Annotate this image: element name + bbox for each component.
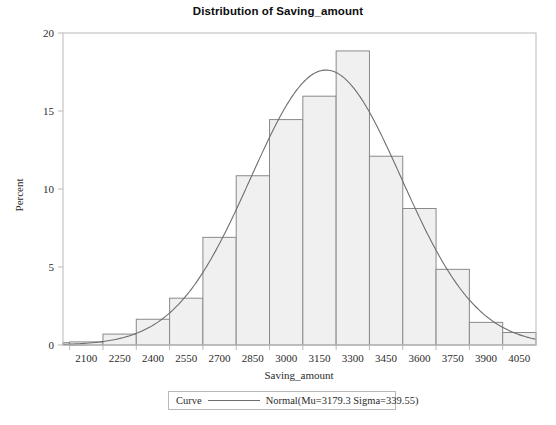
x-tick-label: 3300: [342, 352, 365, 364]
x-tick-label: 3000: [275, 352, 298, 364]
histogram-bar: [369, 156, 402, 345]
histogram-bar: [236, 176, 269, 345]
histogram-chart: Distribution of Saving_amount 05101520 2…: [0, 0, 556, 425]
histogram-bar: [270, 120, 303, 345]
y-axis-title: Percent: [13, 179, 25, 212]
histogram-bar: [436, 269, 469, 345]
chart-legend: Curve Normal(Mu=3179.3 Sigma=339.55): [168, 391, 396, 410]
y-axis-ticks: 05101520: [43, 27, 63, 351]
histogram-bar: [170, 298, 203, 345]
histogram-bar: [203, 237, 236, 345]
bars-group: [63, 51, 536, 345]
histogram-bar: [303, 96, 336, 345]
histogram-bar: [403, 209, 436, 346]
legend-line-swatch: [208, 400, 260, 401]
x-tick-label: 2250: [109, 352, 132, 364]
x-tick-label: 2550: [175, 352, 198, 364]
x-axis-title: Saving_amount: [264, 369, 333, 381]
y-tick-label: 5: [49, 261, 55, 273]
y-tick-label: 10: [43, 183, 55, 195]
y-tick-label: 15: [43, 105, 55, 117]
x-tick-label: 3900: [475, 352, 498, 364]
histogram-bar: [469, 322, 502, 345]
x-tick-label: 3450: [375, 352, 398, 364]
x-tick-label: 4050: [508, 352, 531, 364]
x-axis-ticks: 2100225024002550270028503000315033003450…: [70, 345, 531, 364]
x-tick-label: 3600: [408, 352, 431, 364]
y-tick-label: 20: [43, 27, 55, 39]
plot-area: 05101520 2100225024002550270028503000315…: [0, 0, 556, 425]
x-tick-label: 3750: [442, 352, 465, 364]
legend-key-label: Curve: [176, 395, 202, 406]
x-tick-label: 3150: [308, 352, 331, 364]
x-tick-label: 2100: [75, 352, 98, 364]
x-tick-label: 2400: [142, 352, 165, 364]
histogram-bar: [136, 319, 169, 345]
x-tick-label: 2700: [209, 352, 232, 364]
y-tick-label: 0: [49, 339, 55, 351]
x-tick-label: 2850: [242, 352, 265, 364]
legend-entry-label: Normal(Mu=3179.3 Sigma=339.55): [266, 395, 419, 406]
histogram-bar: [336, 51, 369, 345]
